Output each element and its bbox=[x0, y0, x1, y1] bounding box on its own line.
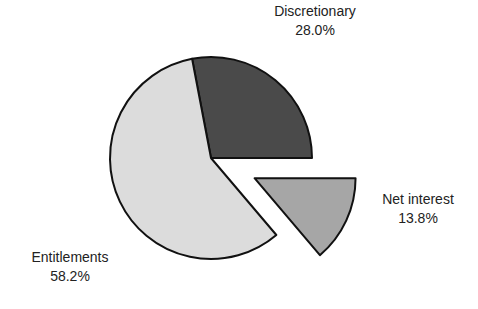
label-discretionary: Discretionary 28.0% bbox=[250, 2, 380, 40]
label-discretionary-pct: 28.0% bbox=[250, 21, 380, 40]
label-net-interest: Net interest 13.8% bbox=[358, 190, 478, 228]
label-entitlements-pct: 58.2% bbox=[20, 267, 120, 286]
slice-net-interest bbox=[255, 178, 356, 255]
label-entitlements: Entitlements 58.2% bbox=[20, 248, 120, 286]
label-entitlements-name: Entitlements bbox=[20, 248, 120, 267]
label-net-interest-pct: 13.8% bbox=[358, 209, 478, 228]
label-discretionary-name: Discretionary bbox=[250, 2, 380, 21]
label-net-interest-name: Net interest bbox=[358, 190, 478, 209]
slice-discretionary bbox=[192, 57, 312, 158]
